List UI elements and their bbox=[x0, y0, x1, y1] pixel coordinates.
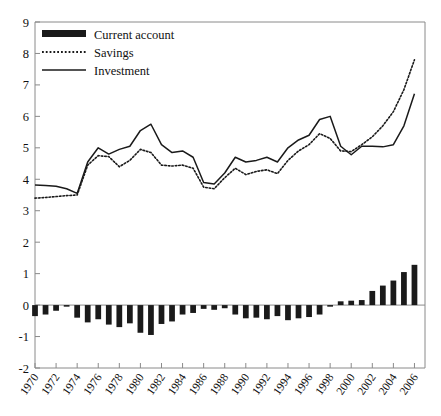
current-account-bar bbox=[401, 272, 407, 305]
current-account-bar bbox=[232, 305, 238, 314]
current-account-bar bbox=[391, 281, 397, 306]
current-account-bar bbox=[275, 305, 281, 316]
y-tick-label: 9 bbox=[23, 16, 29, 30]
current-account-bar bbox=[43, 305, 49, 314]
legend-swatch-current-account bbox=[42, 30, 86, 37]
current-account-bar bbox=[32, 305, 38, 316]
legend-label: Savings bbox=[94, 46, 134, 60]
current-account-bar bbox=[169, 305, 175, 321]
x-tick-label: 1982 bbox=[144, 371, 167, 397]
current-account-bar bbox=[338, 301, 344, 305]
y-tick-label: 5 bbox=[23, 141, 29, 155]
current-account-bar bbox=[64, 305, 70, 307]
y-tick-label: 1 bbox=[23, 267, 29, 281]
current-account-bar bbox=[159, 305, 165, 324]
y-tick-label: -1 bbox=[19, 330, 29, 344]
y-tick-label: 8 bbox=[23, 47, 29, 61]
x-tick-label: 1986 bbox=[186, 371, 209, 397]
current-account-bar bbox=[243, 305, 249, 318]
x-tick-label: 1992 bbox=[250, 371, 273, 397]
x-tick-label: 2004 bbox=[376, 371, 399, 397]
current-account-bar bbox=[285, 305, 291, 320]
current-account-bar bbox=[359, 300, 365, 305]
current-account-bar bbox=[148, 305, 154, 335]
current-account-bar bbox=[306, 305, 312, 317]
current-account-bar bbox=[201, 305, 207, 309]
x-tick-label: 1980 bbox=[123, 371, 146, 397]
y-tick-label: 4 bbox=[23, 173, 30, 187]
x-tick-label: 1972 bbox=[39, 371, 62, 397]
y-tick-label: 2 bbox=[23, 236, 29, 250]
current-account-bar bbox=[327, 305, 333, 307]
legend-label: Investment bbox=[94, 64, 150, 78]
current-account-bar bbox=[412, 265, 418, 305]
y-tick-label: 3 bbox=[23, 204, 29, 218]
current-account-bar bbox=[74, 305, 80, 318]
current-account-bar bbox=[138, 305, 144, 333]
current-account-bar bbox=[190, 305, 196, 313]
current-account-bar bbox=[348, 301, 354, 305]
current-account-bar bbox=[222, 305, 228, 308]
x-tick-label: 2000 bbox=[334, 371, 357, 397]
x-tick-label: 1974 bbox=[60, 371, 83, 397]
current-account-bar bbox=[317, 305, 323, 314]
current-account-bar bbox=[106, 305, 112, 325]
current-account-bar bbox=[116, 305, 122, 327]
x-tick-label: 2006 bbox=[397, 371, 420, 397]
current-account-bar bbox=[264, 305, 270, 319]
current-account-bar bbox=[95, 305, 101, 319]
y-tick-label: 7 bbox=[23, 78, 29, 92]
x-tick-label: 1990 bbox=[228, 371, 251, 397]
x-tick-label: 1994 bbox=[271, 371, 294, 397]
x-tick-label: 2002 bbox=[355, 371, 378, 397]
x-tick-label: 1984 bbox=[165, 371, 188, 397]
current-account-bar bbox=[127, 305, 133, 323]
current-account-bar bbox=[369, 291, 375, 305]
current-account-bar bbox=[253, 305, 259, 318]
y-tick-label: 6 bbox=[23, 110, 29, 124]
y-tick-label: -2 bbox=[19, 362, 29, 376]
x-tick-label: 1988 bbox=[207, 371, 230, 397]
x-tick-label: 1996 bbox=[292, 371, 315, 397]
x-axis-labels: 1970197219741976197819801982198419861988… bbox=[18, 371, 421, 397]
y-tick-label: 0 bbox=[23, 299, 29, 313]
current-account-bar bbox=[380, 286, 386, 306]
x-tick-label: 1976 bbox=[81, 371, 104, 397]
x-tick-label: 1998 bbox=[313, 371, 336, 397]
current-account-bar bbox=[211, 305, 217, 310]
current-account-bar bbox=[180, 305, 186, 314]
economic-indicators-chart: 9876543210-1-2 1970197219741976197819801… bbox=[0, 0, 441, 416]
y-axis-labels: 9876543210-1-2 bbox=[19, 16, 30, 376]
legend-label: Current account bbox=[94, 28, 175, 42]
x-tick-label: 1978 bbox=[102, 371, 125, 397]
current-account-bar bbox=[296, 305, 302, 318]
current-account-bar bbox=[85, 305, 91, 322]
chart-container: 9876543210-1-2 1970197219741976197819801… bbox=[0, 0, 441, 416]
current-account-bar bbox=[53, 305, 59, 311]
